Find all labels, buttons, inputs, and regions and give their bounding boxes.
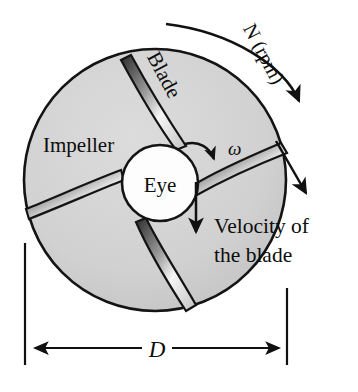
impeller-figure-svg: Impeller Eye Blade ω N (rpm) Velocity of… [0,0,358,392]
velocity-label-line1: Velocity of [214,214,310,238]
diameter-label: D [148,337,166,362]
impeller-diagram: Impeller Eye Blade ω N (rpm) Velocity of… [0,0,358,392]
velocity-label-line2: the blade [214,243,292,267]
rotation-speed-label: N (rpm) [238,20,289,88]
eye-label: Eye [144,173,177,197]
impeller-label: Impeller [43,133,114,157]
omega-label: ω [228,138,241,159]
